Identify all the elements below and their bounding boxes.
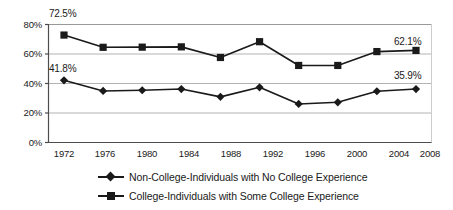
x-tick-label-2000: 2000 — [340, 148, 374, 159]
y-axis-ticks — [45, 25, 48, 143]
diamond-marker-icon — [98, 171, 124, 183]
chart-legend: Non-College-Individuals with No College … — [0, 167, 453, 205]
data-point-square[interactable] — [60, 31, 67, 38]
legend-item-college[interactable]: College-Individuals with Some College Ex… — [0, 186, 453, 205]
data-point-diamond[interactable] — [177, 85, 185, 93]
square-marker-icon — [98, 190, 124, 202]
data-point-diamond[interactable] — [412, 85, 420, 93]
data-point-square[interactable] — [178, 43, 185, 50]
data-point-square[interactable] — [256, 38, 263, 45]
annotation-noncollege-1972: 41.8% — [49, 63, 76, 74]
data-point-square[interactable] — [295, 62, 302, 69]
data-series-layer — [60, 31, 420, 108]
y-tick-label-80: 80% — [16, 19, 42, 30]
data-point-square[interactable] — [373, 48, 380, 55]
data-point-diamond[interactable] — [99, 87, 107, 95]
annotation-college-1972: 72.5% — [49, 8, 76, 19]
gridlines — [48, 25, 432, 114]
x-tick-label-1976: 1976 — [88, 148, 122, 159]
data-point-diamond[interactable] — [295, 100, 303, 108]
line-chart: 80% 60% 40% 20% 0% 1972 1976 1980 1984 1… — [0, 0, 453, 210]
data-point-square[interactable] — [217, 54, 224, 61]
y-tick-label-20: 20% — [16, 107, 42, 118]
x-tick-label-1996: 1996 — [298, 148, 332, 159]
series-line — [64, 35, 416, 65]
x-tick-label-2008: 2008 — [413, 148, 447, 159]
data-point-square[interactable] — [100, 44, 107, 51]
data-point-diamond[interactable] — [216, 93, 224, 101]
data-point-square[interactable] — [334, 62, 341, 69]
series-non-college — [60, 76, 420, 108]
x-tick-label-1972: 1972 — [47, 148, 81, 159]
legend-item-non-college[interactable]: Non-College-Individuals with No College … — [0, 167, 453, 186]
x-tick-label-1984: 1984 — [172, 148, 206, 159]
data-point-diamond[interactable] — [334, 98, 342, 106]
x-tick-label-1980: 1980 — [130, 148, 164, 159]
x-tick-label-1988: 1988 — [214, 148, 248, 159]
series-college — [60, 31, 419, 69]
annotation-noncollege-2008: 35.9% — [394, 70, 421, 81]
data-point-diamond[interactable] — [255, 83, 263, 91]
y-tick-label-0: 0% — [16, 137, 42, 148]
annotation-college-2008: 62.1% — [394, 36, 421, 47]
x-tick-label-1992: 1992 — [256, 148, 290, 159]
x-tick-label-2004: 2004 — [382, 148, 416, 159]
y-tick-label-60: 60% — [16, 48, 42, 59]
data-point-square[interactable] — [139, 44, 146, 51]
data-point-diamond[interactable] — [138, 86, 146, 94]
legend-label-non-college: Non-College-Individuals with No College … — [129, 171, 367, 183]
data-point-diamond[interactable] — [373, 87, 381, 95]
legend-label-college: College-Individuals with Some College Ex… — [129, 190, 359, 202]
data-point-square[interactable] — [412, 47, 419, 54]
y-tick-label-40: 40% — [16, 78, 42, 89]
